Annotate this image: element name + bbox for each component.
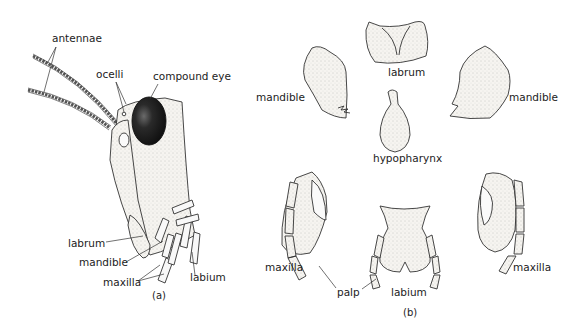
labrum-shape bbox=[366, 22, 428, 64]
label-mandible-a: mandible bbox=[79, 256, 128, 268]
label-maxilla-right: maxilla bbox=[513, 261, 551, 273]
label-ocelli: ocelli bbox=[96, 68, 123, 80]
label-hypopharynx: hypopharynx bbox=[373, 152, 442, 164]
label-maxilla-left: maxilla bbox=[265, 261, 303, 273]
mandible-right-shape bbox=[450, 46, 510, 119]
label-maxilla-a: maxilla bbox=[103, 276, 141, 288]
label-mandible-right: mandible bbox=[509, 91, 558, 103]
antenna-icon bbox=[28, 56, 118, 128]
label-compound-eye: compound eye bbox=[153, 70, 231, 82]
caption-a: (a) bbox=[152, 290, 166, 302]
label-labrum-b: labrum bbox=[388, 66, 425, 78]
compound-eye-shape bbox=[132, 97, 166, 145]
label-antennae: antennae bbox=[52, 32, 102, 44]
caption-b: (b) bbox=[403, 307, 417, 319]
label-palp: palp bbox=[337, 286, 360, 298]
label-labium-a: labium bbox=[190, 271, 226, 283]
hypopharynx-shape bbox=[380, 90, 410, 152]
insect-mouthparts-diagram: antennae ocelli compound eye labrum mand… bbox=[0, 0, 580, 334]
label-labium-b: labium bbox=[391, 286, 427, 298]
diagram-drawing bbox=[0, 0, 580, 334]
label-labrum-a: labrum bbox=[68, 237, 105, 249]
labium-shape bbox=[380, 206, 431, 272]
panel-a-head bbox=[28, 54, 200, 283]
label-mandible-left: mandible bbox=[256, 91, 305, 103]
